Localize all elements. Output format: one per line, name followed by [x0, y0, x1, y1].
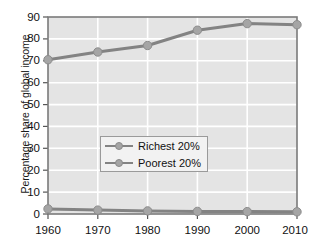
x-axis-tick-labels: 1960 1970 1980 1990 2000 2010: [0, 225, 315, 241]
legend-item-poorest: Poorest 20%: [101, 154, 207, 171]
x-tick-label: 1960: [26, 225, 70, 237]
data-point: [143, 207, 151, 215]
x-tick-label: 1980: [126, 225, 170, 237]
data-point: [94, 48, 102, 56]
chart-legend: Richest 20% Poorest 20%: [100, 136, 208, 172]
data-point: [143, 41, 151, 49]
legend-marker-icon: [105, 140, 133, 152]
chart-container: Percentage share of global income 90 80 …: [0, 0, 315, 247]
data-point: [193, 207, 201, 215]
data-point: [193, 26, 201, 34]
plot-background: [48, 17, 297, 214]
legend-item-richest: Richest 20%: [101, 137, 207, 154]
x-tick-label: 1990: [175, 225, 219, 237]
data-point: [243, 19, 251, 27]
x-tick-label: 2010: [273, 225, 315, 237]
data-point: [94, 206, 102, 214]
plot-area: [0, 0, 315, 247]
x-tick-label: 2000: [225, 225, 269, 237]
legend-label: Poorest 20%: [133, 157, 201, 169]
x-tick-label: 1970: [76, 225, 120, 237]
data-point: [293, 21, 301, 29]
data-point: [293, 208, 301, 216]
data-point: [44, 205, 52, 213]
data-point: [243, 207, 251, 215]
data-point: [44, 56, 52, 64]
legend-label: Richest 20%: [133, 140, 200, 152]
legend-marker-icon: [105, 157, 133, 169]
